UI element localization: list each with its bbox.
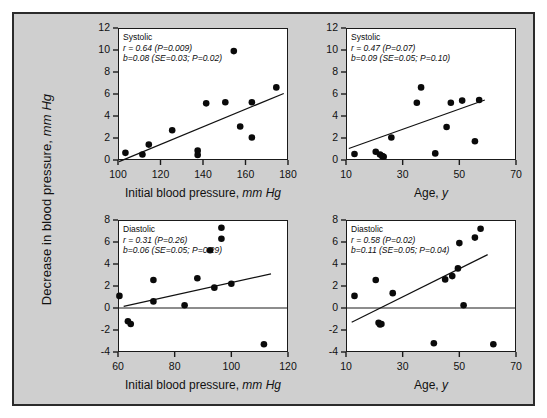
y-tick-label: 0 [308,153,338,165]
y-tick-label: 6 [308,87,338,99]
data-point [351,151,358,158]
x-axis-label-text: Initial blood pressure, [125,186,242,200]
data-point [194,152,201,159]
data-point [456,240,463,247]
plot-cell-bottom-right: -4-20246810305070Diastolicr = 0.58 (P=0.… [306,214,521,399]
y-tick-label: 4 [308,257,338,269]
figure-panel: Decrease in blood pressure, mm Hg 024681… [12,12,535,406]
data-point [476,97,483,104]
x-tick-label: 180 [268,168,308,180]
data-point [273,84,280,91]
data-point [443,124,450,131]
y-tick-label: 8 [80,213,110,225]
data-point [222,99,229,106]
x-axis-label-bottom-right: Age, y [346,378,516,392]
data-point [490,341,497,348]
y-tick-label: 2 [80,131,110,143]
y-tick-label: 0 [80,153,110,165]
regression-line [349,100,485,148]
data-point [378,321,385,328]
y-tick-label: 8 [308,65,338,77]
data-point [460,302,467,309]
y-tick-label: 4 [80,109,110,121]
data-point [116,293,123,300]
regression-line [352,255,488,323]
plot-cell-top-right: 02468101210305070Systolicr = 0.47 (P=0.0… [306,22,521,207]
y-axis-label: Decrease in blood pressure, mm Hg [39,50,54,350]
x-axis-label-bottom-left: Initial blood pressure, mm Hg [118,378,288,392]
y-axis-label-text: Decrease in blood pressure, [39,136,54,305]
x-axis-label-units: y [442,186,448,200]
x-axis-label-top-left: Initial blood pressure, mm Hg [118,186,288,200]
x-tick-label: 80 [155,360,195,372]
data-point [150,277,157,284]
data-point [237,123,244,130]
y-tick-label: 8 [80,65,110,77]
x-axis-label-text: Age, [414,378,442,392]
x-axis-label-text: Initial blood pressure, [125,378,242,392]
data-point [231,48,238,55]
data-point [380,153,387,160]
x-tick-label: 120 [141,168,181,180]
data-point [388,134,395,141]
data-point [122,150,129,157]
y-tick-label: 4 [308,109,338,121]
y-tick-label: 0 [308,301,338,313]
data-point [218,224,225,231]
plot-cell-top-left: 024681012100120140160180Systolicr = 0.64… [78,22,293,207]
data-point [459,97,466,104]
data-point [442,276,449,283]
data-point [150,298,157,305]
data-point [477,226,484,233]
data-point [351,293,358,300]
y-tick-label: 4 [80,257,110,269]
x-axis-label-units: y [442,378,448,392]
y-tick-label: 6 [80,235,110,247]
y-tick-label: 12 [308,21,338,33]
data-point [218,235,225,242]
y-tick-label: -2 [308,323,338,335]
data-point [472,234,479,241]
figure-root: Decrease in blood pressure, mm Hg 024681… [0,0,547,418]
data-point [146,141,153,148]
x-axis-label-units: mm Hg [242,378,281,392]
x-tick-label: 140 [183,168,223,180]
x-tick-label: 60 [98,360,138,372]
data-point [448,100,455,107]
y-tick-label: 12 [80,21,110,33]
x-tick-label: 100 [211,360,251,372]
y-tick-label: -2 [80,323,110,335]
x-tick-label: 70 [496,360,536,372]
data-point [127,321,134,328]
x-tick-label: 50 [439,168,479,180]
x-axis-label-text: Age, [414,186,442,200]
x-tick-label: 30 [383,360,423,372]
data-point [249,134,256,141]
data-point [418,84,425,91]
data-point [207,247,214,254]
data-point [431,340,438,347]
y-tick-label: 6 [308,235,338,247]
y-tick-label: 10 [80,43,110,55]
y-tick-label: 2 [308,279,338,291]
x-tick-label: 30 [383,168,423,180]
data-point [228,281,235,288]
y-tick-label: 6 [80,87,110,99]
x-tick-label: 100 [98,168,138,180]
data-point [169,127,176,134]
data-point [449,273,456,280]
y-tick-label: -4 [308,345,338,357]
plot-cell-bottom-left: -4-2024686080100120Diastolicr = 0.31 (P=… [78,214,293,399]
data-point [389,290,396,297]
data-point [372,277,379,284]
y-tick-label: 2 [308,131,338,143]
x-tick-label: 10 [326,168,366,180]
data-point [455,265,462,272]
y-tick-label: 0 [80,301,110,313]
data-point [249,99,256,106]
data-point [181,302,188,309]
data-point [472,138,479,145]
data-point [194,275,201,282]
data-point [414,100,421,107]
y-tick-label: 10 [308,43,338,55]
